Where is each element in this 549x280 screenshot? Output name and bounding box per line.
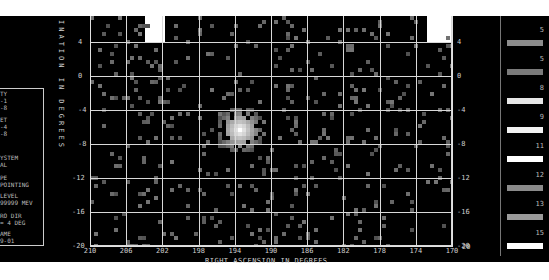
y-axis-title: INATION IN DEGREES (57, 20, 65, 150)
plot-frame (90, 16, 453, 247)
y-tick-label-right: 0 (457, 73, 461, 80)
x-tick-label: 186 (301, 247, 314, 255)
legend-label: 5 (540, 55, 544, 63)
corner-label: 20 (462, 244, 470, 251)
legend-swatch (507, 214, 543, 220)
legend-swatch (507, 243, 543, 249)
info-line: -8 (0, 131, 7, 137)
y-tick-label: -16 (72, 209, 85, 216)
y-tick-label-right: -4 (457, 107, 465, 114)
legend-swatch (507, 40, 543, 46)
x-tick-label: 210 (84, 247, 97, 255)
x-tick-label: 170 (446, 247, 459, 255)
y-tick-label: -12 (72, 175, 85, 182)
x-tick-label: 178 (373, 247, 386, 255)
legend-swatch (507, 156, 543, 162)
legend-label: 8 (540, 84, 544, 92)
legend-label: 5 (540, 26, 544, 34)
x-tick-label: 194 (228, 247, 241, 255)
x-tick-label: 198 (192, 247, 205, 255)
info-line: -8 (0, 105, 7, 111)
legend-label: 13 (536, 200, 544, 208)
info-line: 9-01 (0, 238, 14, 244)
y-tick-label: 0 (78, 73, 82, 80)
legend-label: 11 (536, 142, 544, 150)
x-tick-label: 190 (265, 247, 278, 255)
y-tick-label-right: -16 (457, 209, 470, 216)
legend-swatch (507, 69, 543, 75)
y-tick-label: 4 (78, 39, 82, 46)
x-tick-label: 206 (120, 247, 133, 255)
y-tick-label: -4 (78, 107, 86, 114)
info-line: AL (0, 162, 7, 168)
y-tick-label-right: -12 (457, 175, 470, 182)
x-tick-label: 174 (409, 247, 422, 255)
legend-swatch (507, 98, 543, 104)
intensity-legend: 558911121315 (500, 16, 549, 256)
info-line: = 4 DEG (0, 220, 25, 226)
info-line: 99999 MEV (0, 200, 33, 206)
info-line: POINTING (0, 182, 29, 188)
y-tick-label-right: -8 (457, 141, 465, 148)
x-tick-label: 202 (156, 247, 169, 255)
y-tick-label: -8 (78, 141, 86, 148)
x-tick-label: 182 (337, 247, 350, 255)
legend-label: 15 (536, 229, 544, 237)
legend-swatch (507, 185, 543, 191)
x-axis-title: RIGHT ASCENSION IN DEGREES (205, 258, 328, 265)
info-panel: TY-1-8ET-4-8YSTEMALPEPOINTINGLEVEL99999 … (0, 88, 44, 246)
legend-swatch (507, 127, 543, 133)
legend-label: 9 (540, 113, 544, 121)
legend-label: 12 (536, 171, 544, 179)
y-tick-label-right: 4 (457, 39, 461, 46)
